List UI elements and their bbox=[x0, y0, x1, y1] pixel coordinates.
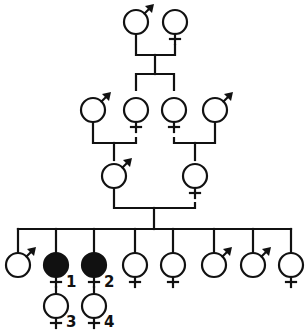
pedigree-canvas: 1 2 3 4 bbox=[0, 0, 306, 335]
male-symbol-icon bbox=[6, 247, 36, 277]
female-symbol-icon bbox=[279, 253, 303, 287]
affected-female-symbol-icon bbox=[44, 253, 68, 287]
sibship-line bbox=[136, 74, 174, 90]
female-symbol-icon bbox=[124, 98, 148, 132]
female-symbol-icon bbox=[183, 164, 207, 198]
pedigree-diagram: 1 2 3 4 bbox=[0, 0, 306, 335]
generation-5: 3 4 bbox=[44, 287, 114, 331]
marriage-line-left bbox=[93, 122, 136, 143]
individual-label-1: 1 bbox=[66, 273, 76, 291]
affected-female-symbol-icon bbox=[82, 253, 106, 287]
male-symbol-icon bbox=[102, 158, 132, 188]
generation-4: 1 2 bbox=[6, 229, 303, 291]
male-symbol-icon bbox=[124, 4, 154, 34]
male-symbol-icon bbox=[241, 247, 271, 277]
individual-label-3: 3 bbox=[66, 313, 76, 331]
female-symbol-icon bbox=[82, 294, 106, 328]
marriage-line bbox=[136, 34, 175, 55]
generation-3 bbox=[102, 158, 207, 229]
female-symbol-icon bbox=[123, 253, 147, 287]
female-symbol-icon bbox=[161, 253, 185, 287]
generation-1 bbox=[124, 4, 187, 90]
generation-2 bbox=[81, 92, 233, 160]
marriage-line bbox=[114, 188, 195, 208]
female-symbol-icon bbox=[162, 98, 186, 132]
individual-label-2: 2 bbox=[104, 273, 114, 291]
male-symbol-icon bbox=[202, 247, 232, 277]
male-symbol-icon bbox=[203, 92, 233, 122]
female-symbol-icon bbox=[44, 294, 68, 328]
male-symbol-icon bbox=[81, 92, 111, 122]
female-symbol-icon bbox=[163, 10, 187, 44]
marriage-line-right bbox=[174, 122, 215, 143]
individual-label-4: 4 bbox=[104, 313, 114, 331]
